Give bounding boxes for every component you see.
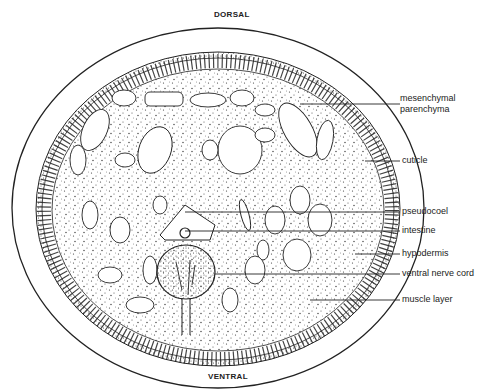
ventral-nerve-cord xyxy=(157,245,215,299)
dorsal-label: DORSAL xyxy=(214,10,250,19)
label-intestine: intestine xyxy=(402,225,436,236)
nematode-cross-section-drawing xyxy=(0,0,480,390)
label-ventral-nerve-cord: ventral nerve cord xyxy=(402,268,474,279)
label-mesenchymal-parenchyma: mesenchymal parenchyma xyxy=(400,93,456,115)
label-cuticle: cuticle xyxy=(402,155,428,166)
ventral-label: VENTRAL xyxy=(208,372,248,381)
label-mesenchymal-line1: mesenchymal xyxy=(400,93,456,104)
label-pseudocoel: pseudocoel xyxy=(402,206,448,217)
label-hypodermis: hypodermis xyxy=(402,248,449,259)
label-muscle-layer: muscle layer xyxy=(402,294,453,305)
label-mesenchymal-line2: parenchyma xyxy=(400,104,456,115)
intestine-lumen xyxy=(180,228,190,238)
